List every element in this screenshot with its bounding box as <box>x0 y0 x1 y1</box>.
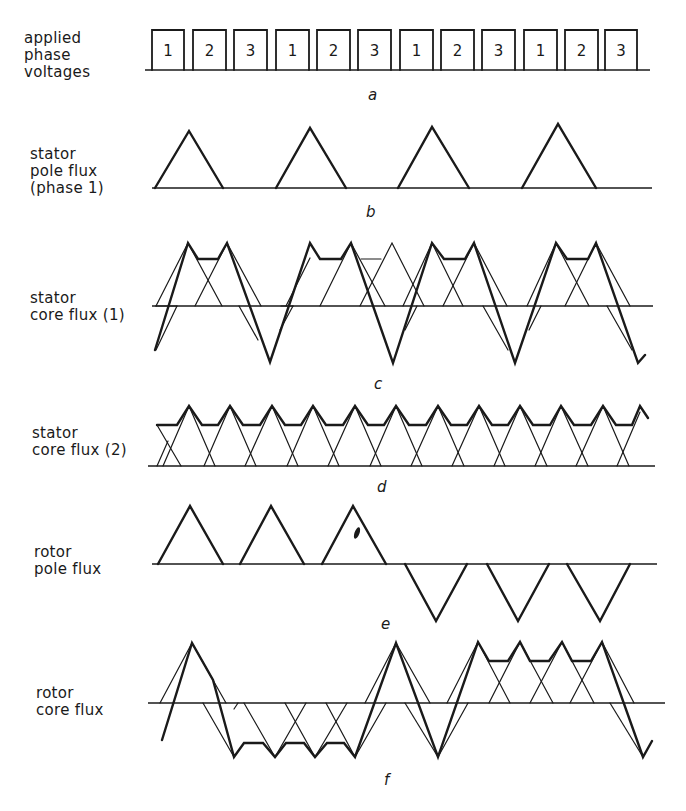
label-line: (phase 1) <box>30 180 104 197</box>
subfigure-letter-b: b <box>366 203 376 221</box>
panel-c <box>152 243 653 363</box>
resultant-flux-waveform <box>398 127 469 188</box>
ink-blot <box>353 527 362 540</box>
component-flux-line <box>617 412 640 466</box>
component-flux-line <box>326 703 386 757</box>
label-line: stator <box>30 146 104 163</box>
resultant-flux-waveform <box>162 642 652 757</box>
phase-number: 1 <box>536 42 546 60</box>
label-line: rotor <box>34 544 101 561</box>
label-line: voltages <box>24 64 90 81</box>
label-line: core flux (2) <box>32 442 127 459</box>
component-flux-line <box>443 243 507 306</box>
subfigure-letter-d: d <box>377 478 387 496</box>
component-flux-line <box>565 243 630 306</box>
subfigure-letter-c: c <box>374 375 382 393</box>
label-line: core flux <box>36 702 104 719</box>
panel-f <box>148 642 665 757</box>
label-line: stator <box>30 290 125 307</box>
component-flux-line <box>570 642 634 703</box>
panel-b <box>152 124 652 188</box>
resultant-flux-waveform <box>487 564 549 621</box>
label-applied-phase-voltages: applied phase voltages <box>24 30 90 81</box>
resultant-flux-waveform <box>158 506 223 564</box>
label-line: rotor <box>36 685 104 702</box>
resultant-flux-waveform <box>155 131 223 188</box>
subfigure-letter-e: e <box>381 615 390 633</box>
component-flux-line <box>365 643 430 703</box>
resultant-flux-waveform <box>522 124 596 188</box>
phase-number: 3 <box>494 42 504 60</box>
component-flux-line <box>163 406 215 466</box>
component-flux-line <box>320 243 385 306</box>
phase-number: 3 <box>370 42 380 60</box>
component-flux-line <box>245 406 298 466</box>
component-flux-line <box>328 406 381 466</box>
label-line: applied <box>24 30 90 47</box>
phase-number: 3 <box>246 42 256 60</box>
phase-number: 2 <box>453 42 463 60</box>
resultant-flux-waveform <box>240 506 304 564</box>
label-line: phase <box>24 47 90 64</box>
subfigure-letter-a: a <box>368 86 377 104</box>
panel-d <box>148 406 655 466</box>
panels-group: 123123123123 <box>145 30 665 757</box>
subfigure-letter-f: f <box>384 771 389 789</box>
label-stator-core-flux-1: stator core flux (1) <box>30 290 125 324</box>
panel-e <box>152 506 657 621</box>
label-line: core flux (1) <box>30 307 125 324</box>
component-flux-line <box>203 703 234 757</box>
component-flux-line <box>157 441 168 466</box>
phase-number: 1 <box>288 42 298 60</box>
label-line: pole flux <box>30 163 104 180</box>
phase-number: 2 <box>329 42 339 60</box>
component-flux-line <box>156 243 222 306</box>
phase-number: 2 <box>205 42 215 60</box>
resultant-flux-waveform <box>276 128 346 188</box>
component-flux-line <box>370 406 422 466</box>
component-flux-line <box>204 406 256 466</box>
resultant-flux-waveform <box>567 564 630 621</box>
phase-number: 2 <box>577 42 587 60</box>
component-flux-line <box>287 406 339 466</box>
component-flux-line <box>447 642 510 703</box>
component-flux-line <box>285 703 347 757</box>
component-flux-line <box>489 642 553 703</box>
phase-number: 3 <box>616 42 626 60</box>
component-flux-line <box>157 425 181 466</box>
phase-number: 1 <box>412 42 422 60</box>
panel-a: 123123123123 <box>145 30 650 70</box>
phase-number: 1 <box>163 42 173 60</box>
label-stator-core-flux-2: stator core flux (2) <box>32 425 127 459</box>
component-flux-line <box>244 703 306 757</box>
component-flux-line <box>530 642 594 703</box>
label-rotor-pole-flux: rotor pole flux <box>34 544 101 578</box>
resultant-flux-waveform <box>155 243 645 363</box>
component-flux-line <box>527 243 589 306</box>
component-flux-line <box>234 703 238 709</box>
resultant-flux-waveform <box>405 564 467 621</box>
label-rotor-core-flux: rotor core flux <box>36 685 104 719</box>
label-line: stator <box>32 425 127 442</box>
label-stator-pole-flux: stator pole flux (phase 1) <box>30 146 104 197</box>
component-flux-line <box>403 243 463 306</box>
label-line: pole flux <box>34 561 101 578</box>
